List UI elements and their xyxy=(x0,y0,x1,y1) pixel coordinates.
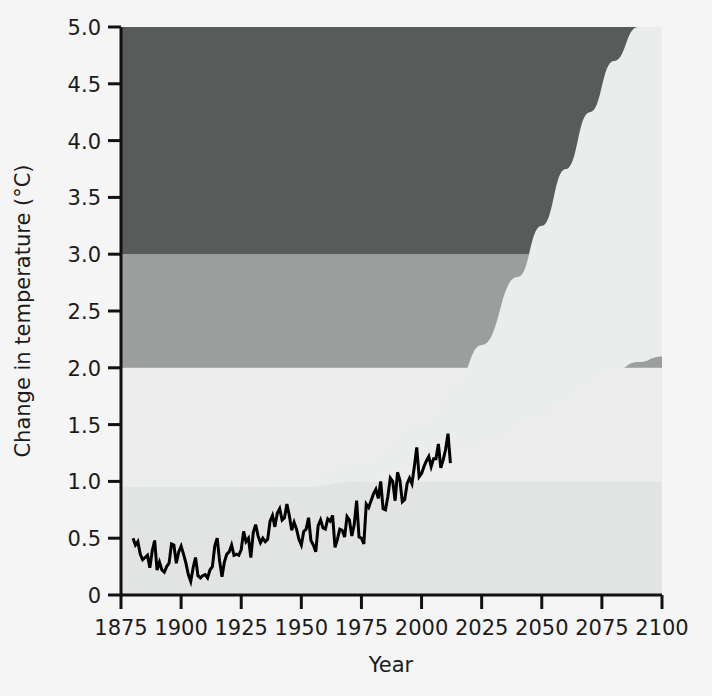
y-tick-label: 3.0 xyxy=(68,243,101,267)
y-tick-label: 2.0 xyxy=(68,357,101,381)
y-tick-label: 1.5 xyxy=(68,414,101,438)
y-tick-label: 5.0 xyxy=(68,16,101,40)
climate-projection-chart: 00.51.01.52.02.53.03.54.04.55.0 18751900… xyxy=(0,0,712,696)
x-tick-label: 2100 xyxy=(635,616,688,640)
x-tick-label: 2000 xyxy=(395,616,448,640)
y-tick-label: 4.5 xyxy=(68,73,101,97)
x-tick-label: 2075 xyxy=(575,616,628,640)
x-tick-label: 2050 xyxy=(515,616,568,640)
y-tick-label: 0 xyxy=(88,584,101,608)
y-axis-title: Change in temperature (°C) xyxy=(11,164,35,457)
x-tick-label: 2025 xyxy=(455,616,508,640)
y-tick-label: 0.5 xyxy=(68,527,101,551)
x-tick-label: 1875 xyxy=(94,616,147,640)
y-tick-label: 1.0 xyxy=(68,470,101,494)
x-tick-label: 1950 xyxy=(275,616,328,640)
x-tick-label: 1975 xyxy=(335,616,388,640)
chart-canvas: 00.51.01.52.02.53.03.54.04.55.0 18751900… xyxy=(0,0,712,696)
y-tick-label: 4.0 xyxy=(68,130,101,154)
x-tick-label: 1900 xyxy=(154,616,207,640)
x-tick-label: 1925 xyxy=(214,616,267,640)
y-tick-label: 3.5 xyxy=(68,186,101,210)
y-tick-label: 2.5 xyxy=(68,300,101,324)
x-axis-title: Year xyxy=(368,653,414,677)
